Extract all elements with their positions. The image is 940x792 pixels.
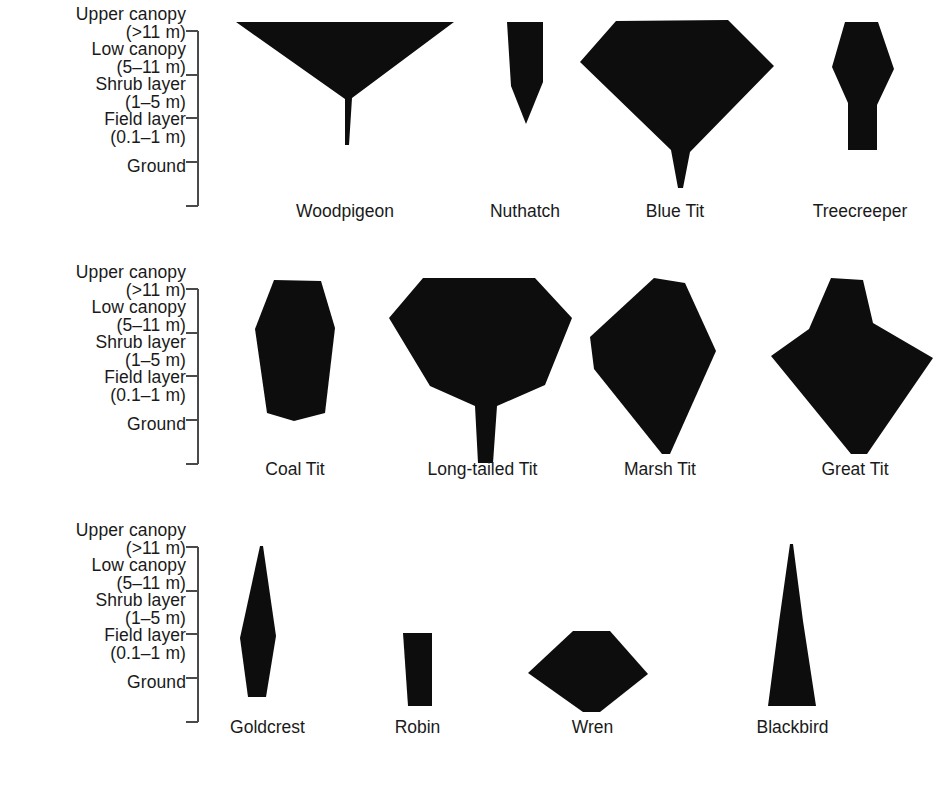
plot-row-1: Woodpigeon Nuthatch Blue Tit Treecreeper <box>200 0 940 264</box>
axis-level-low-canopy: Low canopy (5–11 m) <box>8 299 186 334</box>
bird-label-long-tailed-tit: Long-tailed Tit <box>375 460 590 479</box>
bird-shape-woodpigeon: Woodpigeon <box>230 0 460 200</box>
plot-row-2: Coal Tit Long-tailed Tit Marsh Tit Great… <box>200 258 940 522</box>
axis-level-upper-canopy: Upper canopy (>11 m) <box>8 264 186 299</box>
plot-row-3: Goldcrest Robin Wren Blackbird <box>200 516 940 780</box>
panel-row-3: Upper canopy (>11 m) Low canopy (5–11 m)… <box>0 516 940 780</box>
bird-shape-goldcrest: Goldcrest <box>200 516 335 716</box>
axis-level-field-layer: Field layer (0.1–1 m) <box>8 627 186 662</box>
bird-shape-great-tit: Great Tit <box>755 258 940 458</box>
axis-level-low-canopy: Low canopy (5–11 m) <box>8 557 186 592</box>
axis-level-shrub-layer: Shrub layer (1–5 m) <box>8 334 186 369</box>
foraging-height-figure: Upper canopy (>11 m) Low canopy (5–11 m)… <box>0 0 940 792</box>
bird-shape-robin: Robin <box>350 516 485 716</box>
bird-label-nuthatch: Nuthatch <box>470 202 580 221</box>
bird-shape-wren: Wren <box>500 516 685 716</box>
bird-shape-treecreeper: Treecreeper <box>790 0 930 200</box>
axis-labels-row-1: Upper canopy (>11 m) Low canopy (5–11 m)… <box>8 6 186 176</box>
bird-label-wren: Wren <box>500 718 685 737</box>
panel-row-2: Upper canopy (>11 m) Low canopy (5–11 m)… <box>0 258 940 522</box>
axis-level-ground: Ground <box>8 662 186 692</box>
panel-row-1: Upper canopy (>11 m) Low canopy (5–11 m)… <box>0 0 940 264</box>
bird-shape-blackbird: Blackbird <box>700 516 885 716</box>
bird-shape-coal-tit: Coal Tit <box>220 258 370 458</box>
bird-label-robin: Robin <box>350 718 485 737</box>
bird-label-goldcrest: Goldcrest <box>200 718 335 737</box>
axis-level-low-canopy: Low canopy (5–11 m) <box>8 41 186 76</box>
bird-shape-nuthatch: Nuthatch <box>470 0 580 200</box>
bird-label-great-tit: Great Tit <box>755 460 940 479</box>
axis-level-ground: Ground <box>8 146 186 176</box>
axis-level-upper-canopy: Upper canopy (>11 m) <box>8 522 186 557</box>
bird-label-woodpigeon: Woodpigeon <box>230 202 460 221</box>
bird-label-coal-tit: Coal Tit <box>220 460 370 479</box>
axis-labels-row-2: Upper canopy (>11 m) Low canopy (5–11 m)… <box>8 264 186 434</box>
bird-label-marsh-tit: Marsh Tit <box>570 460 750 479</box>
axis-level-field-layer: Field layer (0.1–1 m) <box>8 111 186 146</box>
bird-shape-long-tailed-tit: Long-tailed Tit <box>375 258 590 458</box>
axis-level-field-layer: Field layer (0.1–1 m) <box>8 369 186 404</box>
bird-label-treecreeper: Treecreeper <box>790 202 930 221</box>
axis-level-upper-canopy: Upper canopy (>11 m) <box>8 6 186 41</box>
axis-level-shrub-layer: Shrub layer (1–5 m) <box>8 592 186 627</box>
bird-label-blue-tit: Blue Tit <box>570 202 780 221</box>
axis-level-shrub-layer: Shrub layer (1–5 m) <box>8 76 186 111</box>
axis-level-ground: Ground <box>8 404 186 434</box>
axis-labels-row-3: Upper canopy (>11 m) Low canopy (5–11 m)… <box>8 522 186 692</box>
bird-label-blackbird: Blackbird <box>700 718 885 737</box>
bird-shape-blue-tit: Blue Tit <box>570 0 780 200</box>
bird-shape-marsh-tit: Marsh Tit <box>570 258 750 458</box>
